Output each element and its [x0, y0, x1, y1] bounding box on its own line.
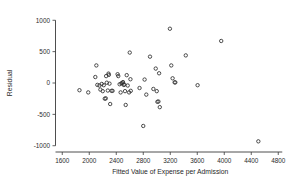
data-point	[168, 27, 171, 30]
plot-canvas: -1000-5000500100016002000240028003200360…	[0, 0, 292, 188]
data-point	[196, 84, 199, 87]
data-point	[152, 87, 155, 90]
data-point	[257, 140, 260, 143]
data-point	[220, 39, 223, 42]
data-point	[87, 91, 90, 94]
y-axis-title: Residual	[6, 69, 13, 96]
y-tick-label: -500	[37, 111, 50, 118]
data-point	[108, 102, 111, 105]
data-point	[94, 75, 97, 78]
data-point	[119, 91, 122, 94]
data-point	[145, 93, 148, 96]
data-point	[157, 72, 160, 75]
x-axis-title: Fitted Value of Expense per Admission	[112, 168, 228, 176]
x-tick-label: 4800	[271, 157, 286, 164]
data-point	[154, 67, 157, 70]
y-tick-label: -1000	[34, 142, 51, 149]
y-tick-label: 1000	[36, 17, 51, 24]
data-point	[138, 86, 141, 89]
data-point	[123, 89, 126, 92]
data-point	[158, 105, 161, 108]
x-tick-label: 1600	[55, 157, 70, 164]
data-point	[106, 89, 109, 92]
data-point	[129, 78, 132, 81]
y-tick-label: 500	[39, 48, 50, 55]
data-point	[155, 89, 158, 92]
data-point	[78, 89, 81, 92]
data-point	[148, 55, 151, 58]
x-tick-label: 3600	[190, 157, 205, 164]
data-point	[143, 78, 146, 81]
x-tick-label: 3200	[163, 157, 178, 164]
data-point-group	[78, 27, 260, 143]
data-point	[171, 77, 174, 80]
data-point	[126, 84, 129, 87]
data-point	[184, 54, 187, 57]
y-tick-label: 0	[46, 79, 50, 86]
x-tick-label: 4000	[217, 157, 232, 164]
data-point	[142, 124, 145, 127]
data-point	[128, 51, 131, 54]
x-tick-label: 2800	[136, 157, 151, 164]
x-tick-label: 4400	[244, 157, 259, 164]
x-tick-label: 2000	[82, 157, 97, 164]
x-tick-label: 2400	[109, 157, 124, 164]
scatter-plot-figure: -1000-5000500100016002000240028003200360…	[0, 0, 292, 188]
data-point	[124, 103, 127, 106]
data-point	[95, 64, 98, 67]
data-point	[170, 64, 173, 67]
data-point	[125, 73, 128, 76]
